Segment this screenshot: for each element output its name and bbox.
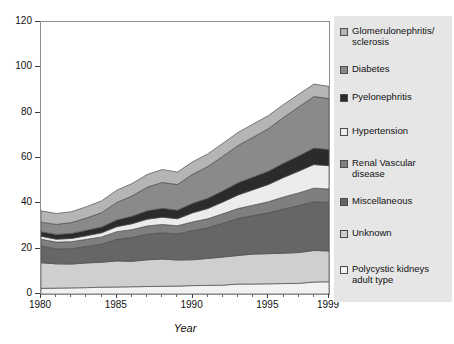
- legend-item[interactable]: Pyelonephritis: [340, 92, 452, 103]
- y-tick-label: 120: [6, 16, 32, 26]
- legend-swatch-icon: [340, 198, 348, 206]
- legend-item[interactable]: Diabetes: [340, 64, 452, 75]
- x-tick-label: 1990: [172, 300, 212, 310]
- x-tick-label: 1995: [247, 300, 287, 310]
- x-tick-mark-minor: [222, 294, 223, 297]
- x-tick-mark-major: [192, 294, 193, 298]
- x-tick-mark-major: [40, 294, 41, 298]
- legend-label: Polycystic kidneys adult type: [352, 264, 429, 285]
- legend-label: Miscellaneous: [352, 196, 412, 207]
- legend-swatch-icon: [340, 66, 348, 74]
- legend-label: Pyelonephritis: [352, 92, 412, 103]
- x-tick-mark-major: [328, 294, 329, 298]
- legend-item[interactable]: Hypertension: [340, 126, 452, 137]
- legend-item[interactable]: Renal Vascular disease: [340, 158, 452, 179]
- legend-label: Diabetes: [352, 64, 390, 75]
- x-tick-mark-minor: [313, 294, 314, 297]
- legend-label: Renal Vascular disease: [352, 158, 416, 179]
- plot-area: [40, 21, 330, 295]
- legend-swatch-icon: [340, 230, 348, 238]
- y-tick-label: 60: [6, 152, 32, 162]
- x-tick-label: 1980: [20, 300, 60, 310]
- legend-swatch-icon: [340, 266, 348, 274]
- x-tick-mark-minor: [131, 294, 132, 297]
- x-tick-mark-minor: [298, 294, 299, 297]
- chart-container: 020406080100120 19801985199019951999 Yea…: [0, 0, 454, 344]
- y-tick-label: 100: [6, 61, 32, 71]
- x-tick-mark-minor: [176, 294, 177, 297]
- legend-label: Glomerulonephritis/ sclerosis: [352, 26, 434, 47]
- x-tick-label: 1985: [96, 300, 136, 310]
- y-tick-label: 0: [6, 288, 32, 298]
- legend-swatch-icon: [340, 28, 348, 36]
- x-tick-mark-major: [267, 294, 268, 298]
- y-tick-label: 40: [6, 197, 32, 207]
- x-tick-mark-minor: [161, 294, 162, 297]
- legend-item[interactable]: Miscellaneous: [340, 196, 452, 207]
- x-tick-mark-minor: [55, 294, 56, 297]
- x-tick-mark-minor: [101, 294, 102, 297]
- legend-item[interactable]: Glomerulonephritis/ sclerosis: [340, 26, 452, 47]
- legend-label: Unknown: [352, 228, 392, 239]
- y-tick-label: 80: [6, 107, 32, 117]
- x-tick-mark-minor: [70, 294, 71, 297]
- x-tick-mark-major: [116, 294, 117, 298]
- x-tick-mark-minor: [283, 294, 284, 297]
- stacked-area-svg: [41, 22, 329, 294]
- y-tick-label: 20: [6, 243, 32, 253]
- legend-item[interactable]: Polycystic kidneys adult type: [340, 264, 452, 285]
- legend-swatch-icon: [340, 94, 348, 102]
- x-tick-mark-minor: [146, 294, 147, 297]
- legend-swatch-icon: [340, 160, 348, 168]
- x-tick-mark-minor: [237, 294, 238, 297]
- chart-legend: Glomerulonephritis/ sclerosisDiabetesPye…: [334, 16, 452, 302]
- x-tick-mark-minor: [207, 294, 208, 297]
- x-axis-title: Year: [40, 322, 330, 334]
- legend-item[interactable]: Unknown: [340, 228, 452, 239]
- legend-swatch-icon: [340, 128, 348, 136]
- x-tick-mark-minor: [85, 294, 86, 297]
- legend-label: Hypertension: [352, 126, 408, 137]
- x-tick-mark-minor: [252, 294, 253, 297]
